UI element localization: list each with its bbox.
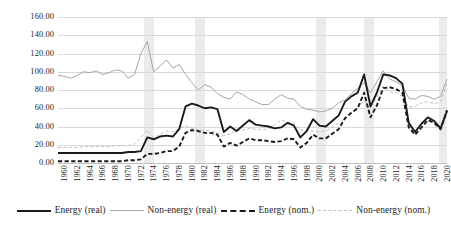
x-axis-tick-label: 1996 [291, 165, 299, 182]
x-axis-tick-label: 1968 [112, 165, 120, 182]
y-axis-tick-label: 0.00 [39, 159, 54, 167]
series-line [58, 87, 447, 161]
price-index-line-chart: 160.00140.00120.00100.0080.0060.0040.002… [0, 0, 451, 230]
x-axis-tick-label: 2012 [393, 165, 401, 182]
series-line [58, 42, 447, 112]
series-lines [58, 17, 447, 163]
legend-item[interactable]: Non-energy (real) [110, 206, 221, 215]
x-axis-tick-label: 1994 [278, 165, 286, 182]
x-axis-tick-label: 1966 [99, 165, 107, 182]
x-axis-tick-label: 1990 [253, 165, 261, 182]
y-axis-tick-label: 100.00 [30, 68, 54, 76]
x-axis-tick-label: 1986 [227, 165, 235, 182]
x-axis-tick-label: 1970 [125, 165, 133, 182]
x-axis-tick-label: 1984 [214, 165, 222, 182]
x-axis-tick-label: 2004 [342, 165, 350, 182]
y-axis-tick-label: 120.00 [30, 49, 54, 57]
x-axis-tick-label: 2008 [367, 165, 375, 182]
y-axis-tick-label: 60.00 [35, 104, 54, 112]
x-axis-tick-label: 2002 [329, 165, 337, 182]
y-axis-tick-label: 40.00 [35, 122, 54, 130]
legend-label: Non-energy (real) [144, 206, 221, 215]
x-axis-tick-label: 1988 [240, 165, 248, 182]
legend-label: Energy (nom.) [255, 206, 319, 215]
chart-legend: Energy (real)Non-energy (real)Energy (no… [0, 200, 451, 222]
x-axis-tick-label: 1974 [150, 165, 158, 182]
legend-label: Non-energy (nom.) [352, 206, 434, 215]
x-axis: 1960196219641966196819701972197419761978… [58, 165, 447, 197]
x-axis-tick-label: 1978 [176, 165, 184, 182]
y-axis-tick-label: 160.00 [30, 13, 54, 21]
x-axis-tick-label: 1960 [61, 165, 69, 182]
x-axis-tick-label: 1962 [74, 165, 82, 182]
y-axis-tick-label: 20.00 [35, 141, 54, 149]
x-axis-tick-label: 1992 [265, 165, 273, 182]
x-axis-tick-label: 2020 [444, 165, 451, 182]
x-axis-tick-label: 2006 [355, 165, 363, 182]
legend-item[interactable]: Energy (real) [17, 206, 110, 215]
x-axis-tick-label: 2010 [380, 165, 388, 182]
legend-label: Energy (real) [51, 206, 110, 215]
x-axis-tick-label: 1976 [163, 165, 171, 182]
plot-area [58, 17, 447, 163]
gridline [58, 163, 447, 164]
legend-item[interactable]: Non-energy (nom.) [318, 206, 434, 215]
series-line [58, 84, 447, 148]
x-axis-tick-label: 1964 [87, 165, 95, 182]
series-line [58, 74, 447, 152]
x-axis-tick-label: 1972 [138, 165, 146, 182]
y-axis-tick-label: 140.00 [30, 31, 54, 39]
y-axis: 160.00140.00120.00100.0080.0060.0040.002… [0, 0, 54, 163]
x-axis-tick-label: 2000 [316, 165, 324, 182]
x-axis-tick-label: 1982 [201, 165, 209, 182]
legend-item[interactable]: Energy (nom.) [221, 206, 319, 215]
x-axis-tick-label: 1998 [304, 165, 312, 182]
x-axis-tick-label: 2018 [431, 165, 439, 182]
x-axis-tick-label: 2016 [418, 165, 426, 182]
y-axis-tick-label: 80.00 [35, 86, 54, 94]
x-axis-tick-label: 1980 [189, 165, 197, 182]
x-axis-tick-label: 2014 [406, 165, 414, 182]
